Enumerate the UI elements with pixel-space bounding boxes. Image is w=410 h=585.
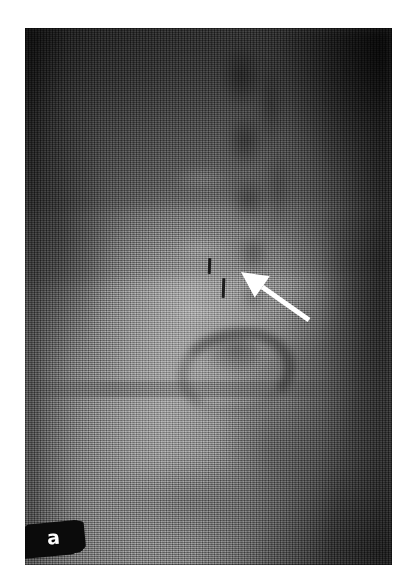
pointer-arrow-icon bbox=[25, 28, 392, 565]
radiograph-image: a bbox=[25, 28, 392, 565]
pointer-arrow-head bbox=[241, 272, 270, 298]
pointer-arrow-shaft bbox=[261, 285, 311, 322]
figure-page: a bbox=[0, 0, 410, 585]
panel-label-text: a bbox=[46, 528, 60, 548]
panel-label-badge: a bbox=[25, 519, 84, 557]
